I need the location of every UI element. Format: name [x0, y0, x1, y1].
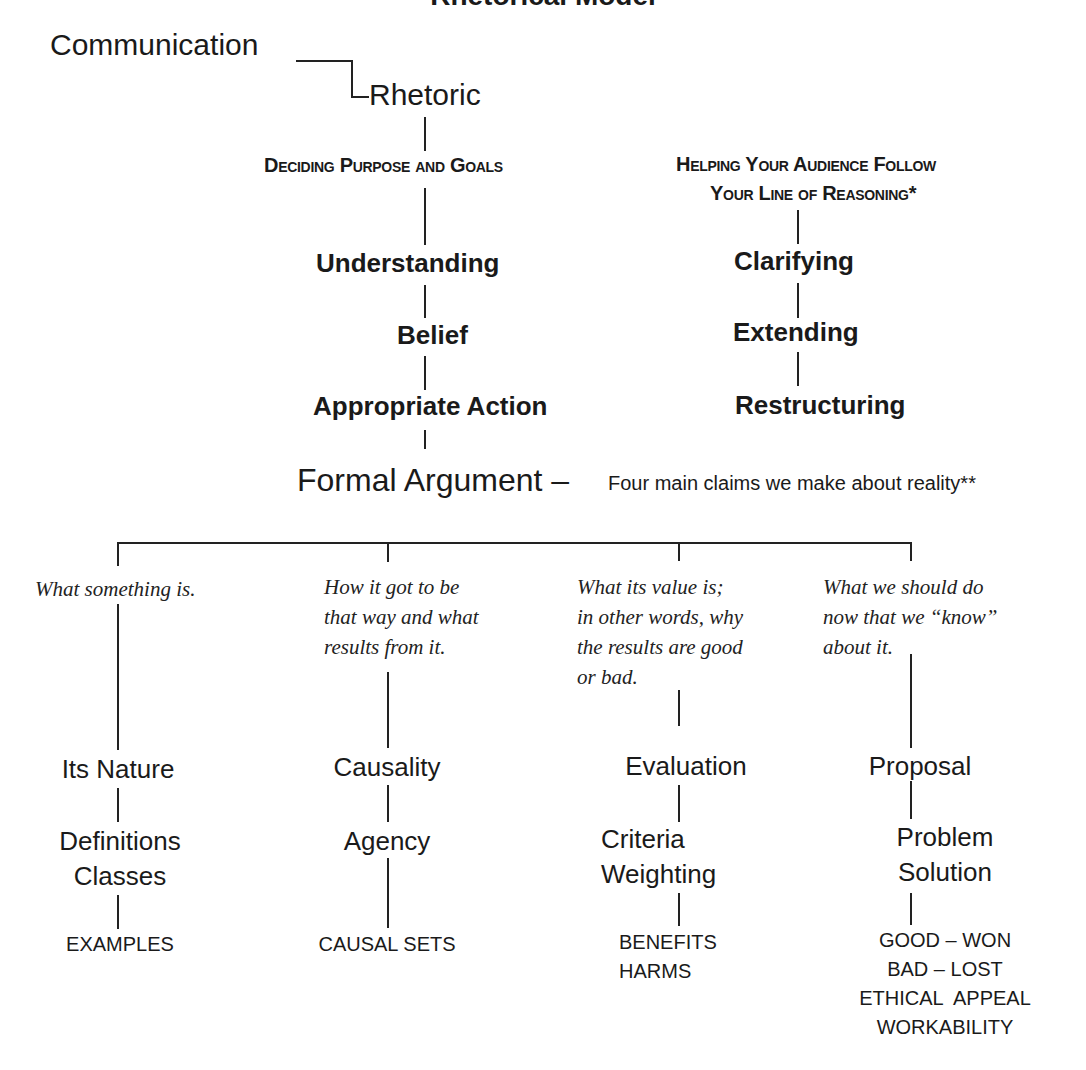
connector [910, 542, 912, 561]
connector [387, 672, 389, 748]
node-agency: Agency [282, 824, 492, 859]
connector [424, 188, 426, 245]
node-proposal-details: GOOD – WON BAD – LOST ETHICAL APPEAL WOR… [835, 926, 1055, 1042]
heading-reasoning-line2: Your Line of Reasoning* [710, 182, 916, 205]
connector [117, 895, 119, 929]
connector [424, 117, 426, 151]
connector [910, 781, 912, 819]
claim-question-causality: How it got to be that way and what resul… [324, 572, 479, 662]
connector [797, 210, 799, 244]
node-its-nature: Its Nature [20, 754, 216, 785]
connector [678, 690, 680, 726]
connector [117, 604, 119, 750]
node-understanding: Understanding [316, 248, 499, 279]
node-criteria-weighting: Criteria Weighting [601, 822, 716, 892]
connector [117, 788, 119, 822]
node-rhetoric: Rhetoric [369, 78, 481, 112]
node-clarifying: Clarifying [734, 246, 854, 277]
connector [678, 893, 680, 926]
node-appropriate-action: Appropriate Action [313, 391, 547, 422]
node-proposal: Proposal [840, 751, 1000, 782]
heading-reasoning-line1: Helping Your Audience Follow [676, 153, 936, 176]
node-problem-solution: Problem Solution [845, 820, 1045, 890]
connector [351, 60, 353, 97]
connector [117, 542, 912, 544]
node-restructuring: Restructuring [735, 390, 905, 421]
node-benefits-harms: BENEFITS HARMS [619, 928, 717, 986]
claim-question-evaluation: What its value is; in other words, why t… [577, 572, 743, 692]
node-definitions-classes: Definitions Classes [20, 824, 220, 894]
diagram-title: Rhetorical Model [0, 0, 1086, 12]
node-communication: Communication [50, 28, 258, 62]
connector [797, 283, 799, 318]
connector [387, 542, 389, 562]
node-extending: Extending [733, 317, 859, 348]
node-examples: EXAMPLES [20, 930, 220, 959]
connector [678, 785, 680, 822]
node-belief: Belief [397, 320, 468, 351]
connector [424, 356, 426, 390]
node-causal-sets: CAUSAL SETS [262, 930, 512, 959]
claim-question-nature: What something is. [35, 574, 195, 604]
connector [797, 352, 799, 386]
heading-purpose: Deciding Purpose and Goals [264, 154, 503, 177]
connector [910, 654, 912, 748]
connector [424, 430, 426, 449]
formal-argument-description: Four main claims we make about reality** [608, 472, 976, 495]
claim-question-proposal: What we should do now that we “know” abo… [823, 572, 997, 662]
connector [351, 96, 369, 98]
node-formal-argument: Formal Argument – [297, 462, 569, 499]
connector [296, 60, 352, 62]
connector [678, 542, 680, 561]
node-evaluation: Evaluation [586, 751, 786, 782]
connector [387, 785, 389, 822]
connector [910, 893, 912, 925]
node-causality: Causality [282, 752, 492, 783]
connector [117, 542, 119, 566]
connector [424, 285, 426, 318]
connector [387, 858, 389, 928]
